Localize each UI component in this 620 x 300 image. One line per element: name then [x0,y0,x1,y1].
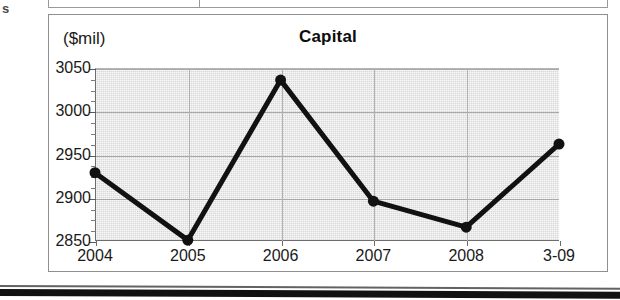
y-axis-tick-minor [91,101,96,102]
y-axis-tick-minor [91,166,96,167]
x-axis-tick-label: 2006 [263,247,299,265]
vertical-gridline [467,69,468,241]
plot-area [95,68,559,241]
y-axis-tick-minor [91,210,96,211]
x-axis-tick [282,241,283,246]
y-axis-tick-label: 3000 [55,102,91,120]
x-axis-tick [467,241,468,246]
x-axis-tick-label: 3-09 [543,247,575,265]
table-column-divider [199,0,200,7]
gridline [96,199,559,200]
y-axis-tick-minor [91,231,96,232]
gridline [96,69,559,70]
y-axis-tick-label: 3050 [55,59,91,77]
x-axis-tick-label: 2008 [448,247,484,265]
x-axis-tick-label: 2004 [77,247,113,265]
y-axis-tick-minor [91,177,96,178]
y-axis-tick-label: 2900 [55,189,91,207]
x-axis-line [95,240,559,241]
x-axis-tick [374,241,375,246]
y-axis-tick-minor [91,123,96,124]
chart-title: Capital [49,27,607,47]
chart-panel: ($mil) Capital 28502900295030003050 2004… [48,14,608,272]
x-axis-labels: 200420052006200720083-09 [95,247,559,273]
y-axis-tick-minor [91,80,96,81]
gridline [96,156,559,157]
partial-table-above-chart [48,0,608,8]
y-axis-tick-label: 2950 [55,146,91,164]
x-axis-tick [560,241,561,246]
page-edge-letter: s [2,2,9,15]
vertical-gridline [189,69,190,241]
y-axis-tick-minor [91,220,96,221]
y-axis-tick-minor [91,188,96,189]
vertical-gridline [374,69,375,241]
gridline [96,112,559,113]
vertical-gridline [282,69,283,241]
x-axis-tick [189,241,190,246]
scanned-page: s ($mil) Capital 28502900295030003050 20… [0,0,620,300]
x-axis-tick-label: 2007 [356,247,392,265]
x-axis-tick [96,241,97,246]
y-axis-tick-minor [91,91,96,92]
x-axis-tick-label: 2005 [170,247,206,265]
page-edge-rule [0,289,620,299]
y-axis-labels: 28502900295030003050 [49,68,91,241]
y-axis-tick-minor [91,145,96,146]
y-axis-tick-minor [91,134,96,135]
